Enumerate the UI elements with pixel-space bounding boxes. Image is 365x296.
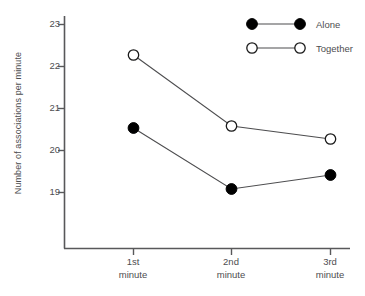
series-alone — [128, 123, 336, 195]
legend-marker-together-left — [247, 43, 257, 53]
y-axis-ticks — [58, 25, 65, 193]
legend-marker-together-right — [295, 43, 305, 53]
data-point-together-1st-minute — [128, 50, 138, 60]
legend-marker-alone-left — [247, 19, 258, 30]
legend-marker-alone-right — [295, 19, 306, 30]
series-alone-line — [134, 128, 331, 189]
legend-entry-together — [247, 43, 305, 53]
legend-entry-alone — [247, 19, 306, 30]
legend — [247, 19, 306, 54]
series-together — [128, 50, 335, 144]
data-point-together-2nd-minute — [226, 121, 236, 131]
data-point-alone-1st-minute — [128, 123, 139, 134]
data-point-alone-3rd-minute — [325, 170, 336, 181]
axis-lines — [64, 16, 350, 249]
line-chart: Number of associations per minute 23 22 … — [0, 0, 365, 296]
x-axis-ticks — [134, 249, 331, 256]
data-point-together-3rd-minute — [325, 134, 335, 144]
chart-canvas — [0, 0, 365, 296]
data-point-alone-2nd-minute — [226, 184, 237, 195]
